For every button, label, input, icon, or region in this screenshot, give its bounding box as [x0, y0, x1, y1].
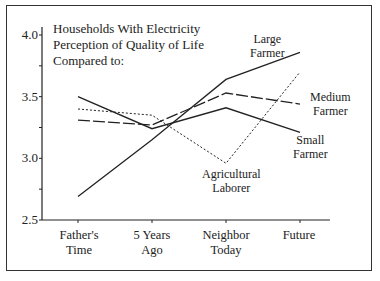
- x-category-label: Father'sTime: [39, 228, 119, 258]
- series-label-large-farmer: LargeFarmer: [250, 32, 285, 60]
- series-label-agricultural-laborer: AgriculturalLaborer: [202, 167, 261, 195]
- y-tick-label: 2.5: [8, 212, 38, 228]
- series-label-small-farmer: SmallFarmer: [293, 133, 328, 161]
- series-line-medium-farmer: [78, 93, 300, 125]
- series-label-medium-farmer: MediumFarmer: [310, 90, 351, 118]
- y-tick-label: 3.5: [8, 89, 38, 105]
- y-tick-label: 4.0: [8, 27, 38, 43]
- x-category-label: 5 YearsAgo: [112, 228, 192, 258]
- x-category-label: Future: [259, 228, 339, 243]
- series-line-small-farmer: [78, 97, 300, 133]
- x-category-label: NeighborToday: [186, 228, 266, 258]
- series-line-large-farmer: [78, 52, 300, 196]
- y-tick-label: 3.0: [8, 150, 38, 166]
